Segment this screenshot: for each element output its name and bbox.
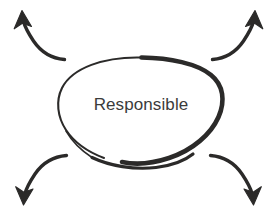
arrow-bottom-right-head [244,187,261,205]
arrow-bottom-left[interactable] [16,156,67,206]
arrow-top-left[interactable] [14,11,64,60]
arrow-top-left-head [14,11,31,29]
arrow-bottom-right-shaft [211,156,253,194]
arrow-bottom-left-head [16,187,33,205]
arrow-top-left-shaft [24,22,65,60]
responsible-bubble[interactable]: Responsible [58,57,222,168]
arrow-top-right-shaft [213,22,254,60]
arrow-top-right-head [246,11,263,29]
node-label-responsible: Responsible [94,95,189,114]
arrow-bottom-left-shaft [25,156,67,194]
arrow-bottom-right[interactable] [211,156,262,206]
arrow-top-right[interactable] [213,11,263,60]
diagram-canvas: Responsible [0,0,277,216]
concept-diagram: Responsible [0,0,277,216]
